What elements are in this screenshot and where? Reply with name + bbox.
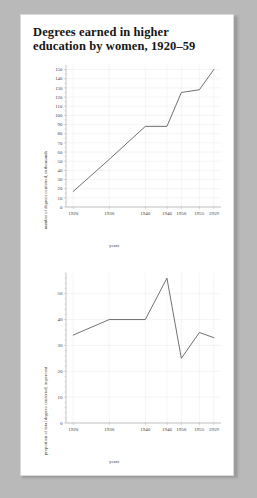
svg-text:50: 50 — [58, 159, 63, 164]
svg-text:10: 10 — [58, 196, 63, 201]
svg-text:1920: 1920 — [68, 211, 79, 216]
svg-text:0: 0 — [60, 421, 63, 426]
svg-text:1930: 1930 — [104, 427, 115, 432]
chart-1-x-axis-title: years — [109, 243, 119, 248]
svg-text:70: 70 — [58, 141, 63, 146]
svg-text:110: 110 — [55, 104, 63, 109]
svg-text:20: 20 — [58, 186, 63, 191]
chart-proportion-percent: 01020304050 1920193019401946195019551959… — [21, 263, 235, 473]
chart-2-x-axis-title: years — [109, 459, 119, 464]
chart-2-data-line — [73, 278, 214, 358]
svg-text:1920: 1920 — [68, 427, 79, 432]
chart-2-y-axis-title: proportion of total degrees conferred, i… — [43, 367, 48, 455]
svg-text:1940: 1940 — [140, 211, 151, 216]
svg-text:100: 100 — [55, 113, 63, 118]
svg-text:50: 50 — [57, 291, 63, 296]
svg-text:60: 60 — [58, 150, 63, 155]
chart-2-gridlines — [66, 273, 221, 423]
svg-text:1946: 1946 — [162, 211, 173, 216]
svg-text:40: 40 — [57, 317, 63, 322]
svg-text:1930: 1930 — [104, 211, 115, 216]
chart-2-ticks — [64, 273, 214, 425]
chart-1-y-axis-title: number of degrees conferred, in thousand… — [43, 151, 48, 229]
svg-text:90: 90 — [58, 122, 63, 127]
svg-text:1955: 1955 — [194, 211, 205, 216]
svg-text:1955: 1955 — [194, 427, 205, 432]
chart-2-y-ticklabels: 01020304050 — [57, 291, 63, 425]
chart-2-svg: 01020304050 1920193019401946195019551959 — [21, 263, 235, 473]
svg-text:1959: 1959 — [209, 427, 220, 432]
svg-text:10: 10 — [57, 395, 63, 400]
chart-1-y-ticklabels: 0102030405060708090100110120130140150 — [55, 67, 63, 209]
chart-1-ticks — [64, 70, 214, 210]
svg-text:40: 40 — [58, 168, 63, 173]
svg-text:1946: 1946 — [162, 427, 173, 432]
svg-text:1959: 1959 — [209, 211, 220, 216]
svg-text:130: 130 — [55, 86, 63, 91]
chart-1-svg: 0102030405060708090100110120130140150 19… — [21, 57, 235, 257]
svg-text:150: 150 — [55, 67, 63, 72]
svg-text:120: 120 — [55, 95, 63, 100]
page-title: Degrees earned in higher education by wo… — [33, 25, 223, 53]
chart-1-x-ticklabels: 1920193019401946195019551959 — [68, 211, 219, 216]
chart-1-gridlines — [66, 65, 221, 207]
svg-text:80: 80 — [58, 131, 63, 136]
chart-2-x-ticklabels: 1920193019401946195019551959 — [68, 427, 219, 432]
svg-text:0: 0 — [60, 205, 63, 210]
chart-degrees-thousands: 0102030405060708090100110120130140150 19… — [21, 57, 235, 257]
svg-text:1940: 1940 — [140, 427, 151, 432]
svg-text:1950: 1950 — [176, 211, 187, 216]
document-page: Degrees earned in higher education by wo… — [20, 14, 234, 476]
svg-text:1950: 1950 — [176, 427, 187, 432]
svg-text:20: 20 — [57, 369, 63, 374]
svg-text:140: 140 — [55, 76, 63, 81]
svg-text:30: 30 — [57, 343, 63, 348]
svg-text:30: 30 — [58, 177, 63, 182]
